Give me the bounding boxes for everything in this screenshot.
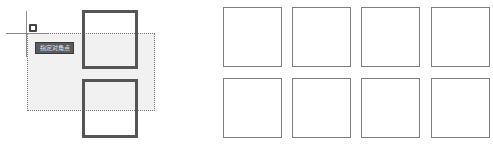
selected-rectangle-2[interactable] <box>82 79 138 138</box>
selected-rectangle-1[interactable] <box>82 10 138 69</box>
rectangle-r2c4[interactable] <box>431 78 490 138</box>
rectangle-r1c1[interactable] <box>223 7 282 67</box>
pickbox-cursor-icon <box>29 24 37 32</box>
crosshair-horizontal-line <box>6 33 48 34</box>
command-prompt-tooltip: 指定对角点 <box>35 42 74 54</box>
rectangle-r1c2[interactable] <box>292 7 351 67</box>
rectangle-r1c3[interactable] <box>361 7 420 67</box>
rectangle-r2c1[interactable] <box>223 78 282 138</box>
crosshair-vertical-line <box>26 11 27 57</box>
rectangle-r1c4[interactable] <box>431 7 490 67</box>
rectangle-r2c3[interactable] <box>361 78 420 138</box>
rectangle-r2c2[interactable] <box>292 78 351 138</box>
